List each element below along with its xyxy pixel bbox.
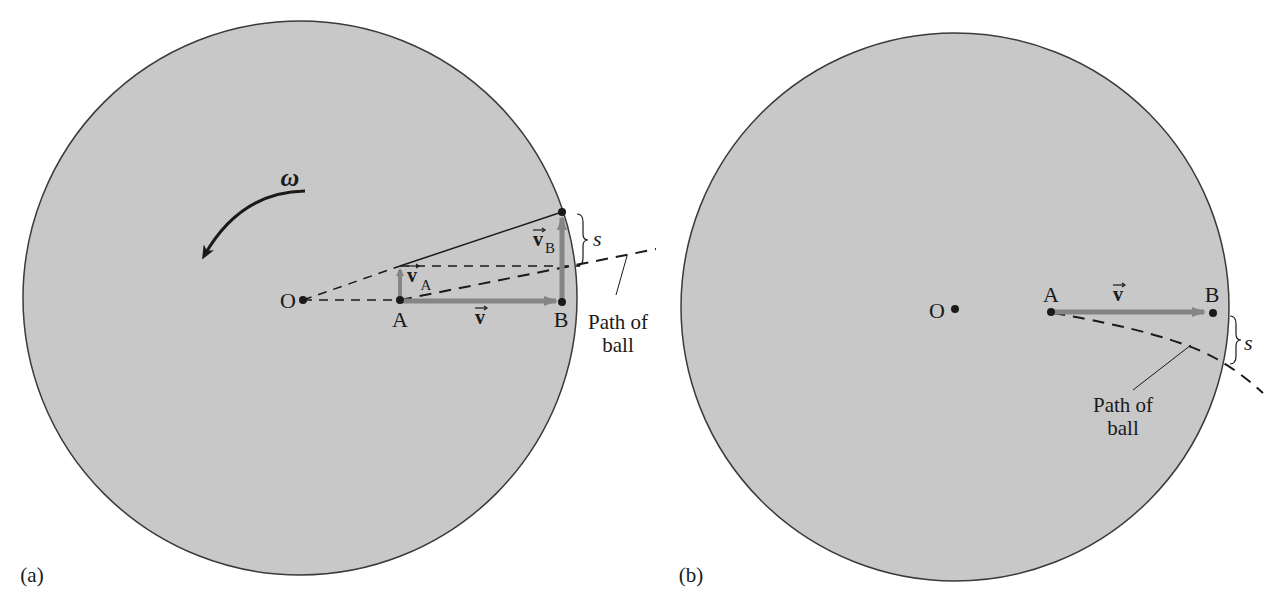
omega-label: ω (281, 163, 300, 192)
path-label-b-line2: ball (1107, 416, 1139, 440)
label-v-b: v (1113, 283, 1123, 305)
label-v-a: v (475, 306, 485, 328)
path-label-a-line2: ball (602, 333, 634, 357)
label-a-b: A (1043, 282, 1059, 307)
label-o-a: O (280, 288, 296, 313)
path-label-b-line1: Path of (1093, 393, 1153, 417)
label-vb-sub: B (545, 240, 555, 256)
label-vb: v (533, 228, 543, 250)
label-a-a: A (392, 307, 408, 332)
label-va: v (407, 264, 417, 286)
label-va-sub: A (421, 277, 432, 293)
displacement-brace-icon (1230, 316, 1241, 364)
point-b-prime-a (558, 208, 566, 216)
panel-label-a: (a) (20, 563, 43, 587)
label-s-a: s (593, 226, 602, 251)
point-o-a (299, 296, 307, 304)
figure-b: O A B v s Path of ball (b) (679, 33, 1263, 587)
label-b-a: B (554, 307, 569, 332)
displacement-brace-icon (577, 214, 588, 266)
path-label-a-line1: Path of (588, 310, 648, 334)
point-b-b (1209, 309, 1217, 317)
rotating-disk-diagram: ω O A B v v A v B (0, 0, 1276, 601)
label-b-b: B (1205, 282, 1220, 307)
label-o-b: O (929, 298, 945, 323)
point-a-a (396, 296, 404, 304)
point-a-b (1047, 308, 1055, 316)
path-leader-line-a (616, 256, 627, 295)
point-o-b (951, 305, 959, 313)
panel-label-b: (b) (679, 563, 704, 587)
point-b-a (558, 298, 566, 306)
label-s-b: s (1244, 330, 1253, 355)
figure-a: ω O A B v v A v B (20, 21, 656, 587)
